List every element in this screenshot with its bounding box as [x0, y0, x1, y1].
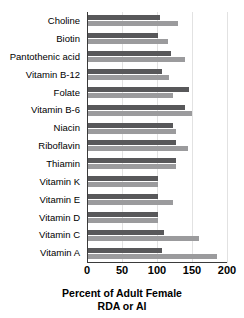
bar	[88, 230, 164, 235]
x-tick-label-200: 200	[218, 265, 236, 276]
bar	[88, 51, 171, 56]
bar	[88, 254, 217, 259]
bar-group	[88, 244, 227, 262]
bar	[88, 182, 158, 187]
bar	[88, 33, 158, 38]
bar-group	[88, 66, 227, 84]
bar	[88, 75, 169, 80]
bar-rows	[88, 12, 227, 262]
x-axis-line	[87, 262, 227, 263]
x-axis-tick-labels: 050100150200	[87, 265, 227, 281]
bar	[88, 248, 162, 253]
x-axis-title-line-1: Percent of Adult Female	[0, 287, 244, 300]
bar	[88, 57, 185, 62]
category-label-vitamin-b-6: Vitamin B-6	[0, 101, 83, 119]
bar	[88, 140, 176, 145]
bar	[88, 236, 199, 241]
bar	[88, 105, 185, 110]
bar-group	[88, 101, 227, 119]
bar	[88, 87, 189, 92]
bar-group	[88, 30, 227, 48]
bar-group	[88, 173, 227, 191]
category-label-vitamin-c: Vitamin C	[0, 226, 83, 244]
bar-group	[88, 12, 227, 30]
bar-group	[88, 226, 227, 244]
x-tick-label-0: 0	[84, 265, 90, 276]
category-label-vitamin-e: Vitamin E	[0, 191, 83, 209]
bar-group	[88, 48, 227, 66]
bar-group	[88, 208, 227, 226]
plot-area	[87, 12, 227, 263]
category-label-folate: Folate	[0, 83, 83, 101]
x-tick-label-50: 50	[116, 265, 128, 276]
bar	[88, 129, 176, 134]
category-label-vitamin-a: Vitamin A	[0, 244, 83, 262]
x-axis-title-line-2: RDA or AI	[0, 300, 244, 313]
bar-chart: Choline Biotin Pantothenic acid Vitamin …	[0, 0, 244, 318]
bar-group	[88, 137, 227, 155]
bar-group	[88, 155, 227, 173]
bar	[88, 69, 162, 74]
category-label-vitamin-d: Vitamin D	[0, 208, 83, 226]
bar	[88, 194, 158, 199]
bar	[88, 146, 188, 151]
bar-group	[88, 83, 227, 101]
x-tick-label-100: 100	[148, 265, 166, 276]
bar	[88, 39, 168, 44]
bar-group	[88, 191, 227, 209]
category-label-thiamin: Thiamin	[0, 155, 83, 173]
category-label-riboflavin: Riboflavin	[0, 137, 83, 155]
category-label-biotin: Biotin	[0, 30, 83, 48]
x-axis-title: Percent of Adult Female RDA or AI	[0, 287, 244, 313]
bar	[88, 15, 160, 20]
gridline-200	[227, 12, 228, 263]
category-label-vitamin-b-12: Vitamin B-12	[0, 66, 83, 84]
category-axis-labels: Choline Biotin Pantothenic acid Vitamin …	[0, 12, 83, 262]
bar	[88, 111, 192, 116]
bar	[88, 21, 178, 26]
bar	[88, 200, 173, 205]
category-label-pantothenic-acid: Pantothenic acid	[0, 48, 83, 66]
category-label-vitamin-k: Vitamin K	[0, 173, 83, 191]
bar-group	[88, 119, 227, 137]
bar	[88, 93, 173, 98]
bar	[88, 123, 173, 128]
bar	[88, 212, 158, 217]
x-tick-label-150: 150	[183, 265, 201, 276]
category-label-choline: Choline	[0, 12, 83, 30]
bar	[88, 176, 158, 181]
bar	[88, 158, 176, 163]
bar	[88, 218, 158, 223]
bar	[88, 164, 176, 169]
category-label-niacin: Niacin	[0, 119, 83, 137]
